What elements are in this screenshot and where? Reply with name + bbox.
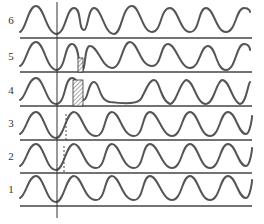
trace-4-hatched-bar — [73, 80, 83, 106]
trace-1-wave — [20, 176, 252, 202]
trace-label-3: 3 — [6, 117, 16, 129]
baselines — [20, 38, 252, 206]
trace-4-wave — [20, 78, 250, 104]
waveform-canvas — [0, 0, 264, 224]
trace-5-shaded-notch — [78, 58, 83, 72]
trace-label-1: 1 — [6, 183, 16, 195]
trace-3-wave — [20, 112, 252, 138]
trace-5-wave — [20, 42, 250, 70]
trace-label-5: 5 — [6, 50, 16, 62]
waveform-figure: 6 5 4 3 2 1 — [0, 0, 264, 224]
trace-label-2: 2 — [6, 150, 16, 162]
trace-2-wave — [20, 144, 252, 170]
trace-6-wave — [20, 6, 250, 34]
trace-label-6: 6 — [6, 14, 16, 26]
trace-label-4: 4 — [6, 84, 16, 96]
